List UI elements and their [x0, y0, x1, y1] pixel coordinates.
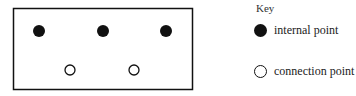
internal-points: [33, 25, 172, 37]
internal-point-3: [160, 25, 172, 37]
component-frame: [14, 9, 193, 90]
key-title: Key: [256, 2, 274, 14]
connection-points: [65, 65, 139, 75]
diagram-canvas: [0, 0, 230, 96]
key-item-internal-point: internal point: [254, 23, 338, 38]
open-circle-icon: [254, 65, 267, 78]
internal-point-1: [33, 25, 45, 37]
connection-point-2: [129, 65, 139, 75]
internal-point-2: [97, 25, 109, 37]
key-item-label: internal point: [274, 23, 338, 38]
connection-point-1: [65, 65, 75, 75]
filled-circle-icon: [254, 24, 267, 37]
key-item-label: connection point: [274, 64, 354, 79]
key-item-connection-point: connection point: [254, 64, 354, 79]
